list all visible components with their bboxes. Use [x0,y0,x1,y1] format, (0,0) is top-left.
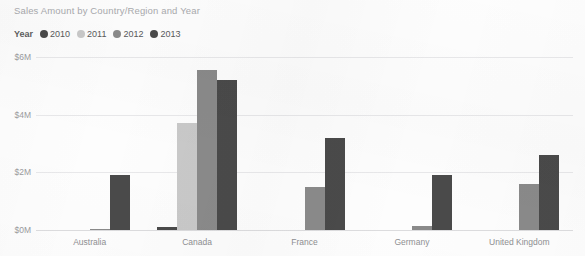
bar[interactable] [90,229,110,230]
y-axis-tick-label: $2M [14,167,31,177]
x-axis-category-label: Germany [358,237,465,247]
bar-chart-visual: Sales Amount by Country/Region and Year … [0,0,585,256]
bar-group: France [251,57,358,230]
bar[interactable] [177,123,197,230]
y-axis-tick-label: $0M [14,225,31,235]
bar-group: Canada [143,57,250,230]
y-axis-tick-label: $4M [14,110,31,120]
x-axis-category-label: United Kingdom [466,237,573,247]
circle-marker-icon [150,30,158,38]
circle-marker-icon [113,30,121,38]
legend-item-label: 2010 [50,29,70,39]
bar[interactable] [157,227,177,230]
bar-groups: AustraliaCanadaFranceGermanyUnited Kingd… [36,57,573,230]
bars [466,57,573,230]
bars [358,57,465,230]
x-axis-category-label: France [251,237,358,247]
legend-item-2011[interactable]: 2011 [77,29,106,39]
bars [143,57,250,230]
bar[interactable] [325,138,345,230]
bar[interactable] [197,70,217,230]
circle-marker-icon [40,30,48,38]
bar[interactable] [432,175,452,230]
legend-item-2012[interactable]: 2012 [113,29,143,39]
bar-group: Australia [36,57,143,230]
legend-item-label: 2013 [160,29,180,39]
x-axis-category-label: Australia [36,237,143,247]
gridline [36,230,573,231]
bar[interactable] [539,155,559,230]
page-title: Sales Amount by Country/Region and Year [14,5,200,16]
legend-item-2013[interactable]: 2013 [150,29,180,39]
circle-marker-icon [77,30,85,38]
legend-item-label: 2012 [123,29,143,39]
legend: Year 2010 2011 2012 2013 [14,29,187,39]
bar[interactable] [217,80,237,230]
legend-title: Year [14,29,33,39]
bar-group: United Kingdom [466,57,573,230]
bar-group: Germany [358,57,465,230]
bar[interactable] [412,226,432,230]
x-axis-category-label: Canada [143,237,250,247]
bar[interactable] [305,187,325,230]
y-axis-tick-label: $6M [14,52,31,62]
legend-item-2010[interactable]: 2010 [40,29,70,39]
plot-area: $0M$2M$4M$6M AustraliaCanadaFranceGerman… [36,57,573,230]
bars [251,57,358,230]
legend-item-label: 2011 [87,29,106,39]
bar[interactable] [519,184,539,230]
bars [36,57,143,230]
bar[interactable] [110,175,130,230]
